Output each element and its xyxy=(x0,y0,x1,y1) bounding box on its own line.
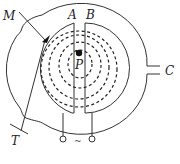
label-p: P xyxy=(74,58,84,72)
target-t xyxy=(10,124,28,134)
label-t: T xyxy=(11,134,20,148)
dee-electrode-b xyxy=(85,23,130,113)
label-c: C xyxy=(165,64,174,78)
ac-source-symbol: ~ xyxy=(74,136,82,146)
label-m: M xyxy=(2,9,16,23)
label-a: A xyxy=(67,8,77,22)
particle-source-p xyxy=(76,50,82,56)
label-b: B xyxy=(85,8,95,22)
extraction-line-t xyxy=(21,40,45,131)
terminal-a xyxy=(60,136,66,142)
cyclotron-diagram: M A B P C T ~ xyxy=(0,0,180,164)
terminal-b xyxy=(89,136,95,142)
